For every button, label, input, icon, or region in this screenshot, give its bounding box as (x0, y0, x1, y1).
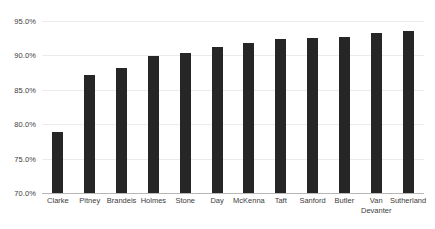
x-tick-label-line: McKenna (233, 196, 265, 205)
x-tick-label: Taft (275, 196, 287, 206)
x-tick-label-line: Stone (175, 196, 195, 205)
bar[interactable] (403, 31, 414, 193)
x-tick-label: Stone (175, 196, 195, 206)
y-axis: 70.0%75.0%80.0%85.0%90.0%95.0% (0, 0, 42, 229)
plot-area (42, 21, 424, 193)
bar[interactable] (371, 33, 382, 193)
x-axis-line (42, 193, 424, 194)
x-tick-label-line: Day (210, 196, 223, 205)
x-axis: ClarkePitneyBrandeisHolmesStoneDayMcKenn… (42, 196, 424, 229)
bar[interactable] (339, 37, 350, 193)
bar[interactable] (275, 39, 286, 193)
x-tick-label: Butler (335, 196, 355, 206)
x-tick-label: Holmes (141, 196, 166, 206)
x-tick-label-line: Sanford (299, 196, 325, 205)
y-tick-label: 75.0% (14, 154, 36, 163)
x-tick-label-line: Van (370, 196, 383, 205)
x-tick-label: Sutherland (390, 196, 426, 206)
y-tick-label: 80.0% (14, 120, 36, 129)
bar[interactable] (243, 43, 254, 193)
x-tick-label: Clarke (47, 196, 69, 206)
bar[interactable] (307, 38, 318, 193)
bar[interactable] (116, 68, 127, 193)
y-tick-label: 90.0% (14, 51, 36, 60)
x-tick-label-line: Devanter (361, 206, 391, 216)
bar[interactable] (180, 53, 191, 193)
x-tick-label-line: Taft (275, 196, 287, 205)
bar[interactable] (84, 75, 95, 193)
x-tick-label: McKenna (233, 196, 265, 206)
x-tick-label-line: Brandeis (107, 196, 137, 205)
x-tick-label: Brandeis (107, 196, 137, 206)
x-tick-label-line: Clarke (47, 196, 69, 205)
bar[interactable] (52, 132, 63, 193)
y-tick-label: 85.0% (14, 85, 36, 94)
x-tick-label: Sanford (299, 196, 325, 206)
x-tick-label-line: Sutherland (390, 196, 426, 205)
bar[interactable] (212, 47, 223, 193)
bar[interactable] (148, 56, 159, 193)
y-tick-label: 95.0% (14, 17, 36, 26)
x-tick-label: Pitney (79, 196, 100, 206)
x-tick-label-line: Pitney (79, 196, 100, 205)
bars-group (42, 21, 424, 193)
y-tick-label: 70.0% (14, 189, 36, 198)
x-tick-label: VanDevanter (361, 196, 391, 215)
x-tick-label-line: Butler (335, 196, 355, 205)
bar-chart: 70.0%75.0%80.0%85.0%90.0%95.0% ClarkePit… (0, 0, 435, 229)
x-tick-label: Day (210, 196, 223, 206)
x-tick-label-line: Holmes (141, 196, 166, 205)
